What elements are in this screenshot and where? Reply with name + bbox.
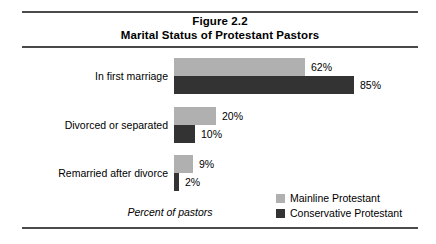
- bar-group: Remarried after divorce 9% 2%: [0, 155, 436, 191]
- category-label: In first marriage: [0, 70, 168, 83]
- category-label: Remarried after divorce: [0, 167, 168, 180]
- bar-mainline: [174, 155, 193, 173]
- figure-number: Figure 2.2: [22, 14, 418, 28]
- bar-value-conservative: 2%: [179, 176, 200, 188]
- bar-mainline: [174, 58, 305, 76]
- divider-top: [22, 11, 418, 13]
- bar-row-mainline: 62%: [174, 58, 436, 76]
- legend-item-conservative: Conservative Protestant: [276, 207, 402, 220]
- bar-group: Divorced or separated 20% 10%: [0, 107, 436, 143]
- bar-value-mainline: 62%: [305, 61, 332, 73]
- bar-row-mainline: 9%: [174, 155, 436, 173]
- divider-under-title: [22, 46, 418, 48]
- figure-title: Figure 2.2 Marital Status of Protestant …: [22, 14, 418, 42]
- legend-swatch-icon: [276, 194, 285, 203]
- bar-mainline: [174, 107, 216, 125]
- bar-row-conservative: 85%: [174, 76, 436, 94]
- legend-label: Mainline Protestant: [290, 192, 380, 205]
- bar-value-mainline: 20%: [216, 110, 243, 122]
- bar-conservative: [174, 76, 354, 94]
- bar-value-conservative: 85%: [354, 79, 381, 91]
- bar-group: In first marriage 62% 85%: [0, 58, 436, 94]
- plot-area: In first marriage 62% 85% Divorced or se…: [0, 52, 436, 202]
- bar-value-conservative: 10%: [195, 128, 222, 140]
- figure-container: Figure 2.2 Marital Status of Protestant …: [0, 0, 436, 244]
- bar-row-mainline: 20%: [174, 107, 436, 125]
- bar-conservative: [174, 125, 195, 143]
- bar-value-mainline: 9%: [193, 158, 214, 170]
- chart-legend: Mainline Protestant Conservative Protest…: [276, 192, 402, 222]
- legend-swatch-icon: [276, 209, 285, 218]
- category-label: Divorced or separated: [0, 119, 168, 132]
- legend-label: Conservative Protestant: [290, 207, 402, 220]
- bar-row-conservative: 10%: [174, 125, 436, 143]
- bar-row-conservative: 2%: [174, 173, 436, 191]
- legend-item-mainline: Mainline Protestant: [276, 192, 402, 205]
- figure-subtitle: Marital Status of Protestant Pastors: [22, 28, 418, 42]
- divider-bottom: [22, 227, 418, 229]
